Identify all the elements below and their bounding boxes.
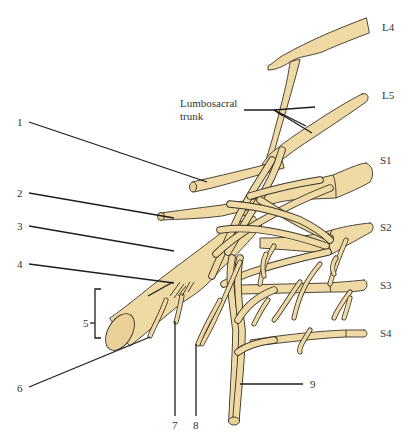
label-l5: L5: [382, 89, 395, 101]
sacral-plexus-diagram: L4 L5 S1 S2 S3 S4 Lumbosacral trunk 1 2 …: [0, 0, 415, 447]
label-3: 3: [17, 220, 23, 232]
label-6: 6: [17, 382, 23, 394]
label-s3: S3: [380, 279, 392, 291]
annotation-lumbosacral-trunk: Lumbosacral trunk: [180, 97, 237, 122]
nerve-root-l4: [266, 18, 369, 160]
label-4: 4: [17, 258, 23, 270]
label-s2: S2: [380, 221, 392, 233]
label-s1: S1: [380, 154, 392, 166]
label-7: 7: [172, 419, 178, 431]
label-5: 5: [83, 317, 89, 329]
root-labels: L4 L5 S1 S2 S3 S4: [380, 21, 395, 339]
label-2: 2: [17, 187, 23, 199]
label-9: 9: [310, 378, 316, 390]
annotation-line-1: Lumbosacral: [180, 97, 237, 109]
label-s4: S4: [380, 327, 392, 339]
annotation-line-2: trunk: [180, 110, 204, 122]
label-1: 1: [17, 116, 23, 128]
label-8: 8: [193, 419, 199, 431]
label-l4: L4: [382, 21, 395, 33]
